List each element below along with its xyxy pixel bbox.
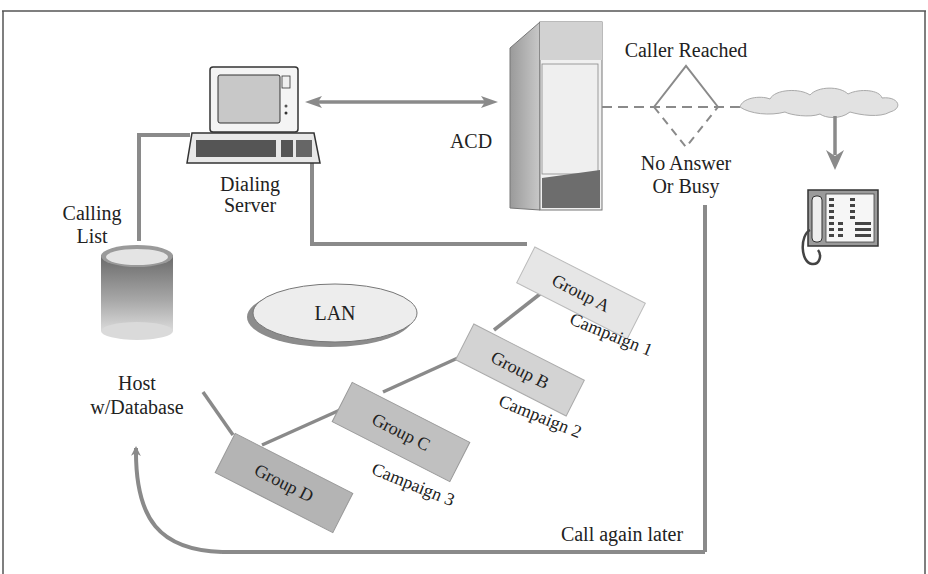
group-c-box: Group C [332,382,470,481]
caller-reached-label: Caller Reached [625,39,748,61]
call-again-arrow [136,448,222,552]
phone-network-cloud-icon [740,88,898,117]
dialing-server-computer-icon [187,67,320,163]
acd-label: ACD [450,130,492,152]
group-d-box: Group D [215,433,353,532]
calling-list-label-line2: List [76,225,108,247]
dialing-server-to-acd-line [312,163,527,244]
call-again-later-label: Call again later [561,523,684,546]
host-label-line2: w/Database [90,396,183,418]
call-center-diagram: Dialing Server Calling List ACD Caller R… [0,0,928,574]
no-answer-label-line2: Or Busy [652,175,719,198]
telephone-icon [803,190,878,264]
host-database-cylinder-icon [101,245,173,340]
host-label-line1: Host [118,372,156,394]
dialing-server-label-line1: Dialing [220,173,280,196]
calling-list-line [139,135,190,241]
calling-list-label-line1: Calling [63,202,122,225]
acd-cabinet-icon [510,22,602,210]
double-arrow [305,96,498,108]
dialing-server-label-line2: Server [224,194,277,216]
call-outcome-diamond [602,66,740,147]
no-answer-label-line1: No Answer [641,152,732,174]
lan-label: LAN [314,302,355,324]
